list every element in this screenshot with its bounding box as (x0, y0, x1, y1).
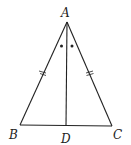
segment-ab (20, 22, 67, 125)
label-d: D (60, 132, 71, 145)
label-c: C (113, 128, 122, 142)
label-a: A (60, 6, 70, 20)
label-b: B (8, 128, 18, 142)
segment-ac (67, 22, 112, 126)
triangle-diagram: A B C D (0, 0, 131, 145)
segment-ad (66, 22, 67, 126)
angle-mark-bad (60, 45, 63, 48)
angle-mark-dac (71, 45, 74, 48)
